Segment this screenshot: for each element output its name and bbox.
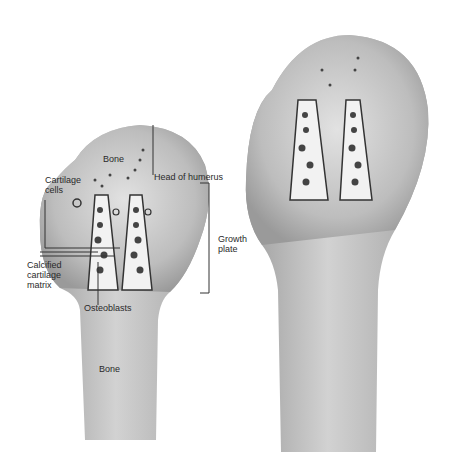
label-calcified-1: Calcified [27,260,62,270]
label-cartilage-cells-1: Cartilage [45,175,81,185]
label-osteoblasts: Osteoblasts [84,303,132,313]
label-bone-shaft: Bone [99,364,120,374]
label-growth-plate-2: plate [218,244,238,254]
label-head-of-humerus: Head of humerus [154,172,223,182]
label-calcified-3: matrix [27,280,52,290]
label-cartilage-cells-2: cells [45,185,63,195]
label-bone-top: Bone [103,154,124,164]
right-humerus [246,35,429,452]
label-calcified-2: cartilage [27,270,61,280]
label-growth-plate-1: Growth [218,234,247,244]
humerus-diagram [0,0,450,464]
